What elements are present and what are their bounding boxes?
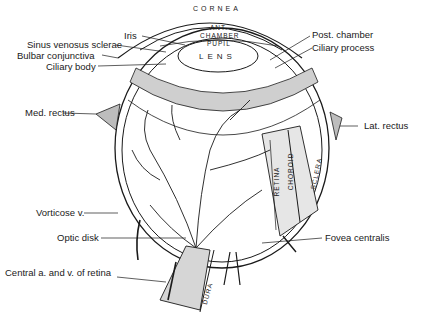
label-iris: Iris: [124, 31, 137, 41]
iris-band: [130, 68, 318, 111]
choroid-label: CHOROID: [287, 153, 294, 191]
ant-chamber-label-2: CHAMBER: [200, 32, 240, 39]
cornea-label: CORNEA: [193, 5, 241, 12]
label-sinus-venosus-sclerae: Sinus venosus sclerae: [27, 40, 122, 50]
label-fovea-centralis: Fovea centralis: [325, 233, 389, 243]
ant-chamber-label-1: ANT.: [210, 24, 228, 31]
label-post-chamber: Post. chamber: [312, 30, 373, 40]
label-optic-disk: Optic disk: [57, 233, 99, 243]
retina-label: RETINA: [273, 167, 280, 197]
eye-anatomy-diagram: CORNEA ANT. CHAMBER PUPIL LENS RETINA CH…: [0, 0, 421, 314]
label-med-rectus: Med. rectus: [25, 108, 75, 118]
label-lat-rectus: Lat. rectus: [364, 121, 408, 131]
lens-label: LENS: [199, 52, 236, 61]
pupil-label: PUPIL: [207, 40, 231, 47]
label-bulbar-conjunctiva: Bulbar conjunctiva: [17, 51, 95, 61]
label-ciliary-process: Ciliary process: [312, 43, 374, 53]
label-ciliary-body: Ciliary body: [46, 62, 96, 72]
label-central-a-v-retina: Central a. and v. of retina: [5, 268, 111, 278]
retinal-vessels: [132, 100, 270, 248]
med-rectus-muscle: [96, 104, 120, 130]
label-vorticose-v: Vorticose v.: [36, 208, 84, 218]
